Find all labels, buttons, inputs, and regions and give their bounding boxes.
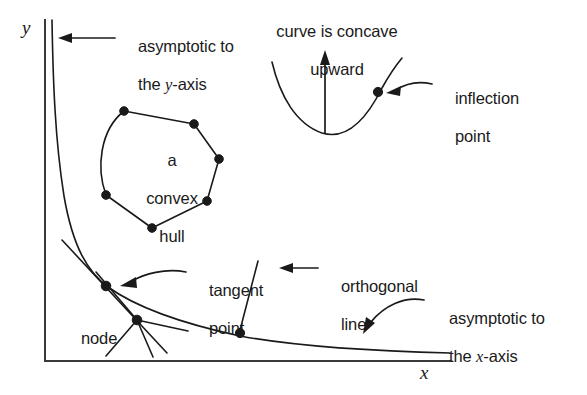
- asymptotic-x-line2-suffix: -axis: [483, 347, 517, 365]
- asymptotic-x-axis-label: asymptotic to the x-axis: [431, 290, 545, 385]
- hull-vertex-dot: [203, 197, 212, 206]
- hull-vertex-dot: [190, 120, 199, 129]
- convex-hull-label: a convex hull: [123, 132, 203, 265]
- tangent-line2: point: [209, 319, 244, 337]
- asymptotic-x-line1: asymptotic to: [449, 309, 545, 327]
- node-line1: node: [81, 329, 117, 347]
- tangent-point-dot: [101, 281, 111, 291]
- asymptotic-y-axis-label: asymptotic to the y-axis: [120, 18, 234, 113]
- convex-hull-line2: convex: [146, 189, 198, 207]
- inflection-line2: point: [455, 127, 490, 145]
- y-axis-label: y: [22, 17, 30, 39]
- asymptotic-x-line2-prefix: the: [449, 347, 476, 365]
- tangent-line1: tangent: [209, 281, 263, 299]
- asymptotic-y-line1: asymptotic to: [138, 37, 234, 55]
- convex-hull-line1: a: [167, 151, 176, 169]
- hull-vertex-dot: [102, 191, 111, 200]
- orthogonal-line-arrowhead: [279, 263, 293, 273]
- node-point-dot: [132, 315, 142, 325]
- convex-hull-line3: hull: [159, 227, 184, 245]
- tangent-point-label: tangent point: [191, 262, 263, 357]
- orthogonal-line1: orthogonal: [341, 277, 418, 295]
- concave-line2: upward: [310, 60, 364, 78]
- asymptotic-y-line2-suffix: -axis: [172, 75, 206, 93]
- node-label: node: [63, 310, 117, 367]
- asymptotic-y-arrowhead: [58, 33, 72, 43]
- concave-line1: curve is concave: [276, 22, 397, 40]
- inflection-line1: inflection: [455, 89, 519, 107]
- orthogonal-line2: line: [341, 315, 366, 333]
- diagram-canvas: y x asymptotic to the y-axis curve is co…: [0, 0, 587, 395]
- asymptotic-y-line2-prefix: the: [138, 75, 165, 93]
- x-axis-label: x: [420, 362, 428, 384]
- tangent-point-leader: [132, 271, 186, 281]
- concave-upward-label: curve is concave upward: [253, 3, 403, 98]
- tangent-point-arrowhead: [120, 277, 137, 288]
- orthogonal-line-label: orthogonal line: [323, 258, 418, 353]
- hull-vertex-dot: [215, 155, 224, 164]
- inflection-point-label: inflection point: [437, 70, 519, 165]
- node-spoke-lower-right: [137, 320, 153, 357]
